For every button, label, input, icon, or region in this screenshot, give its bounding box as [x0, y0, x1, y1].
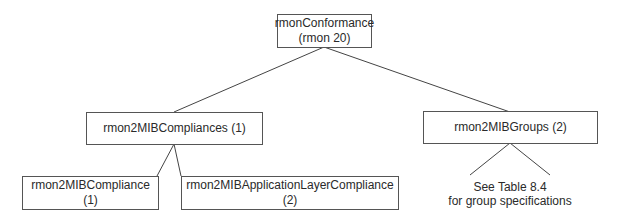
node-rmon-conformance: rmonConformance (rmon 20): [277, 14, 372, 48]
groups-note: See Table 8.4 for group specifications: [430, 180, 590, 208]
node-rmon2-mib-application-layer-compliance: rmon2MIBApplicationLayerCompliance (2): [181, 176, 399, 210]
node-label: rmon2MIBCompliance (1): [23, 178, 158, 208]
node-label: rmon2MIBApplicationLayerCompliance (2): [182, 178, 398, 208]
node-label: rmon2MIBGroups (2): [454, 120, 567, 135]
tree-diagram: rmonConformance (rmon 20) rmon2MIBCompli…: [0, 0, 618, 221]
node-rmon2-mib-compliance: rmon2MIBCompliance (1): [22, 176, 159, 210]
note-line-1: See Table 8.4: [430, 180, 590, 194]
node-label: rmon2MIBCompliances (1): [103, 121, 246, 136]
node-sublabel: (rmon 20): [298, 31, 350, 46]
note-line-2: for group specifications: [430, 194, 590, 208]
node-rmon2-mib-groups: rmon2MIBGroups (2): [423, 111, 598, 144]
node-rmon2-mib-compliances: rmon2MIBCompliances (1): [86, 112, 263, 145]
node-label: rmonConformance: [275, 16, 374, 31]
